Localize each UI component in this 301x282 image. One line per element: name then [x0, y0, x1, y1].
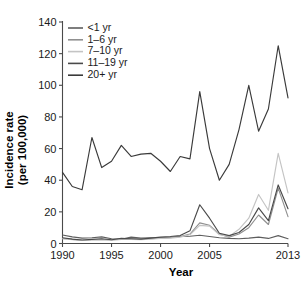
x-tick-label: 2005 — [197, 249, 221, 261]
x-tick-label: 1990 — [50, 249, 74, 261]
y-tick-label: 140 — [38, 16, 56, 28]
y-tick-group: 020406080100120140 — [38, 16, 62, 250]
legend-label: 1–6 yr — [88, 33, 118, 45]
y-tick-label: 20 — [44, 206, 56, 218]
legend-label: 7–10 yr — [88, 44, 124, 56]
line-chart: 020406080100120140 19901995200020052013 … — [0, 0, 301, 282]
x-axis-title: Year — [169, 266, 194, 278]
x-tick-label: 2013 — [276, 249, 300, 261]
legend-label: 11–19 yr — [88, 56, 129, 68]
x-tick-label: 2000 — [148, 249, 172, 261]
y-axis-title-line2: (per 100,000) — [16, 115, 28, 185]
y-tick-label: 100 — [38, 79, 56, 91]
x-axis-group: 19901995200020052013 — [50, 244, 300, 261]
y-axis-group: 020406080100120140 — [38, 16, 62, 250]
chart-figure: 020406080100120140 19901995200020052013 … — [0, 0, 301, 282]
y-tick-label: 40 — [44, 174, 56, 186]
legend-label: <1 yr — [88, 21, 112, 33]
series-line — [63, 188, 289, 240]
y-tick-label: 120 — [38, 48, 56, 60]
series-line — [63, 185, 289, 240]
x-tick-group: 19901995200020052013 — [50, 244, 300, 261]
legend-label: 20+ yr — [88, 68, 118, 80]
y-tick-label: 80 — [44, 111, 56, 123]
y-tick-label: 60 — [44, 143, 56, 155]
x-tick-label: 1995 — [99, 249, 123, 261]
series-line — [63, 153, 289, 240]
chart-legend: <1 yr1–6 yr7–10 yr11–19 yr20+ yr — [68, 21, 128, 80]
y-axis-title-line1: Incidence rate — [3, 111, 15, 188]
